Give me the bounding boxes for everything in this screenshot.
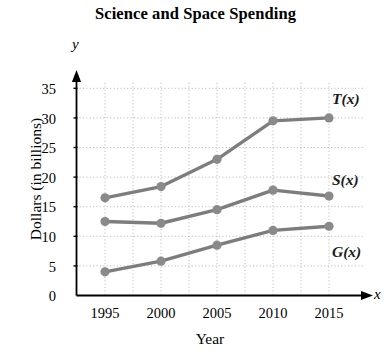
data-point — [324, 222, 333, 231]
data-point — [268, 186, 277, 195]
data-point — [212, 205, 221, 214]
data-point — [156, 257, 165, 266]
data-point — [212, 155, 221, 164]
data-point — [100, 267, 109, 276]
data-point — [100, 217, 109, 226]
data-point — [268, 226, 277, 235]
chart-figure: Science and Space Spending Dollars (in b… — [0, 0, 391, 357]
data-point — [212, 241, 221, 250]
data-point — [156, 219, 165, 228]
data-point — [100, 193, 109, 202]
data-point — [156, 182, 165, 191]
plot-area — [0, 0, 391, 357]
data-point — [324, 113, 333, 122]
data-point — [324, 191, 333, 200]
data-point — [268, 116, 277, 125]
horizontal-gridlines — [80, 88, 364, 266]
vertical-gridlines — [105, 83, 329, 295]
